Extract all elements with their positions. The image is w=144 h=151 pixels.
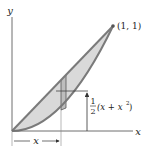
svg-text:1: 1 <box>90 97 95 106</box>
strip-height-label: 1 2 (x + x 2 ) <box>90 97 132 116</box>
point-1-1 <box>111 24 115 28</box>
line-y-equals-x <box>12 26 113 131</box>
svg-text:(x + x: (x + x <box>97 102 123 112</box>
point-label: (1, 1) <box>117 21 141 31</box>
x-axis-label: x <box>135 126 141 137</box>
distance-label: x <box>33 135 39 146</box>
y-axis-label: y <box>6 5 13 16</box>
svg-text:2: 2 <box>90 107 95 116</box>
svg-text:): ) <box>129 102 132 112</box>
diagram: x y x (1, 1) 1 2 (x + x 2 ) <box>0 0 144 151</box>
